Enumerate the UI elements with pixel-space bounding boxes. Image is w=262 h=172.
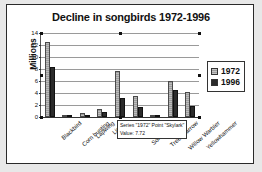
y-axis-tick-label: 12 — [24, 42, 38, 48]
legend-item-1996[interactable]: 1996 — [211, 77, 240, 87]
gridline — [41, 45, 199, 46]
selection-handle[interactable] — [198, 32, 201, 35]
selection-handle[interactable] — [40, 74, 43, 77]
bar-1996-willow-warbler[interactable] — [173, 90, 178, 117]
bar-1996-skylark[interactable] — [120, 98, 125, 117]
bar-1996-linnet[interactable] — [102, 112, 107, 117]
bar-group — [129, 96, 147, 117]
legend-item-1972[interactable]: 1972 — [211, 66, 240, 76]
y-axis-tick-label: 10 — [24, 54, 38, 60]
bar-group — [164, 81, 182, 117]
bar-1996-corn-bunting[interactable] — [67, 115, 72, 117]
y-axis-tick-label: 4 — [24, 90, 38, 96]
chart-legend[interactable]: 1972 1996 — [207, 61, 245, 92]
bar-group — [59, 115, 77, 117]
y-axis-tick-label: 0 — [24, 114, 38, 120]
bar-group — [111, 71, 129, 117]
y-axis-tick-label: 8 — [24, 66, 38, 72]
x-axis-label: Blackbird — [60, 120, 82, 141]
bar-1996-yellowhammer[interactable] — [190, 106, 195, 117]
plot-area: 02468101214 BlackbirdCorn buntingLapwing… — [40, 33, 199, 118]
legend-swatch-1996-icon — [211, 79, 218, 86]
data-point-tooltip: Series "1972" Point "Skylark" Value: 7.7… — [117, 120, 187, 139]
tooltip-value: Value: 7.72 — [120, 130, 184, 138]
tooltip-series-point: Series "1972" Point "Skylark" — [120, 122, 184, 130]
selection-handle[interactable] — [198, 74, 201, 77]
y-axis-tick-label: 2 — [24, 102, 38, 108]
y-axis-tick-label: 14 — [24, 30, 38, 36]
bar-group — [76, 113, 94, 117]
bar-group — [181, 92, 199, 117]
y-axis-tick-label: 6 — [24, 78, 38, 84]
gridline — [41, 57, 199, 58]
bar-1996-blackbird[interactable] — [50, 67, 55, 117]
selection-handle[interactable] — [40, 116, 43, 119]
selection-handle[interactable] — [198, 116, 201, 119]
bar-group — [146, 115, 164, 117]
bar-1996-tree-sparrow[interactable] — [155, 115, 160, 117]
legend-label-1996: 1996 — [221, 77, 240, 87]
selection-handle[interactable] — [40, 32, 43, 35]
chart-frame: Decline in songbirds 1972-1996 Millions … — [6, 4, 254, 164]
chart-title: Decline in songbirds 1972-1996 — [21, 11, 241, 23]
bar-group — [94, 109, 112, 117]
bar-1996-lapwing[interactable] — [85, 115, 90, 117]
bar-group — [41, 42, 59, 117]
selection-handle[interactable] — [119, 32, 122, 35]
bar-1996-song-thrush[interactable] — [138, 107, 143, 117]
legend-label-1972: 1972 — [221, 66, 240, 76]
selection-handle[interactable] — [119, 116, 122, 119]
legend-swatch-1972-icon — [211, 68, 218, 75]
